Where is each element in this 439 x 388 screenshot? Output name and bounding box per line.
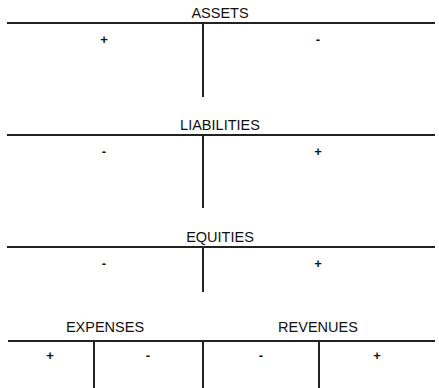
section-divider <box>202 340 204 388</box>
account-title: ASSETS <box>191 6 248 21</box>
debit-sign: + <box>100 33 108 46</box>
account-title: LIABILITIES <box>180 118 260 133</box>
vertical-divider <box>93 340 95 388</box>
credit-sign: - <box>146 349 150 362</box>
vertical-divider <box>202 246 204 292</box>
debit-sign: - <box>259 349 263 362</box>
horizontal-rule <box>7 246 435 248</box>
horizontal-rule <box>7 134 435 136</box>
credit-sign: + <box>314 257 322 270</box>
account-title: REVENUES <box>278 320 358 335</box>
credit-sign: + <box>314 145 322 158</box>
account-title: EXPENSES <box>66 320 144 335</box>
debit-sign: - <box>102 257 106 270</box>
credit-sign: + <box>373 349 381 362</box>
account-title: EQUITIES <box>186 230 254 245</box>
vertical-divider <box>202 134 204 208</box>
debit-sign: + <box>46 349 54 362</box>
credit-sign: - <box>316 33 320 46</box>
debit-sign: - <box>102 145 106 158</box>
horizontal-rule <box>7 22 435 24</box>
vertical-divider <box>202 22 204 97</box>
vertical-divider <box>318 340 320 388</box>
horizontal-rule <box>8 340 435 342</box>
